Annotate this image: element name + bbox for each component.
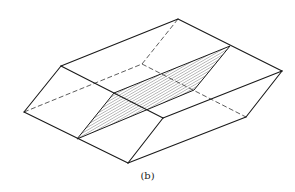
parallelepiped-diagram	[0, 0, 295, 192]
figure-caption: (b)	[0, 170, 295, 181]
caption-text: (b)	[140, 170, 154, 181]
hatched-cross-section	[77, 46, 230, 139]
